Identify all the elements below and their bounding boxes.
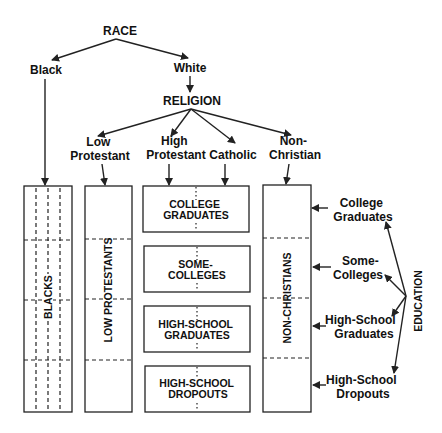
blacks-column: BLACKS <box>24 186 72 412</box>
level-line1: College <box>340 196 384 210</box>
level-line2: Colleges <box>333 268 383 282</box>
education-level-high-school-graduates: High-School Graduates <box>325 313 399 341</box>
education-box-college-graduates: COLLEGE GRADUATES <box>143 186 249 232</box>
arrow-to-low-protestants-box <box>102 164 105 185</box>
arrow-religion-to-low-protestant <box>98 109 191 136</box>
non-christian-line1: Non- <box>280 134 307 148</box>
white-label: White <box>174 61 207 75</box>
level-line2: Graduates <box>333 210 393 224</box>
arrow-education-to-college-graduates <box>386 222 406 296</box>
education-level-high-school-dropouts: High-School Dropouts <box>326 373 400 401</box>
arrow-education-to-high-school-dropouts <box>394 296 406 373</box>
education-box-label: HIGH-SCHOOL DROPOUTS <box>159 377 236 400</box>
blacks-label: BLACKS <box>42 275 54 319</box>
education-level-some-colleges: Some- Colleges <box>333 254 383 282</box>
arrow-race-to-black <box>52 39 116 60</box>
race-religion-education-diagram: RACE Black White RELIGION Low Protestant… <box>0 0 442 433</box>
non-christians-column: NON-CHRISTIANS <box>263 185 311 412</box>
catholic-label: Catholic <box>209 148 257 162</box>
education-levels: College Graduates Some- Colleges High-Sc… <box>312 196 424 401</box>
label-line2: DROPOUTS <box>168 388 228 400</box>
education-box-high-school-dropouts: HIGH-SCHOOL DROPOUTS <box>145 366 250 412</box>
level-line1: High-School <box>326 373 397 387</box>
label-line2: COLLEGES <box>168 269 226 281</box>
arrow-to-non-christians-box <box>286 164 289 184</box>
diagram-canvas: RACE Black White RELIGION Low Protestant… <box>0 0 442 433</box>
education-boxes: COLLEGE GRADUATES SOME- COLLEGES HIGH-SC… <box>143 186 250 412</box>
religion-high-protestant: High Protestant <box>146 134 205 162</box>
high-protestant-line1: High <box>161 134 188 148</box>
label-line2: GRADUATES <box>164 329 230 341</box>
low-protestants-column: LOW PROTESTANTS <box>85 186 132 412</box>
education-label: EDUCATION <box>412 270 424 332</box>
arrow-race-to-white <box>116 39 188 58</box>
religion-catholic: Catholic <box>209 148 257 162</box>
non-christians-label: NON-CHRISTIANS <box>281 253 293 344</box>
religion-label: RELIGION <box>163 94 221 108</box>
level-line1: Some- <box>342 254 379 268</box>
religion-low-protestant: Low Protestant <box>70 135 129 163</box>
level-line1: High-School <box>325 313 396 327</box>
arrow-religion-to-non-christian <box>191 109 291 135</box>
low-protestants-label: LOW PROTESTANTS <box>102 238 114 343</box>
education-level-college-graduates: College Graduates <box>333 196 393 224</box>
education-box-high-school-graduates: HIGH-SCHOOL GRADUATES <box>144 306 250 352</box>
race-label: RACE <box>103 24 137 38</box>
low-protestant-line1: Low <box>86 135 111 149</box>
level-line2: Graduates <box>334 327 394 341</box>
high-protestant-line2: Protestant <box>146 148 205 162</box>
education-box-some-colleges: SOME- COLLEGES <box>144 246 250 292</box>
arrow-religion-to-high-protestant <box>171 109 191 136</box>
low-protestant-line2: Protestant <box>70 149 129 163</box>
education-box-label: COLLEGE GRADUATES <box>163 198 229 221</box>
religion-non-christian: Non- Christian <box>269 134 321 162</box>
education-box-label: HIGH-SCHOOL GRADUATES <box>158 318 235 341</box>
black-label: Black <box>30 63 62 77</box>
label-line2: GRADUATES <box>163 209 229 221</box>
non-christian-line2: Christian <box>269 148 321 162</box>
level-line2: Dropouts <box>336 387 390 401</box>
